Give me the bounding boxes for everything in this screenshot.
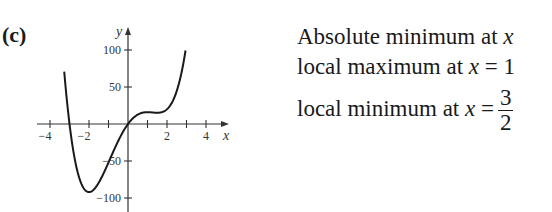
y-tick-label: −100 <box>96 191 121 205</box>
fraction: 32 <box>498 86 514 135</box>
absolute-min-line: Absolute minimum at x <box>297 22 515 52</box>
y-tick-label: 100 <box>103 43 121 57</box>
extrema-notes: Absolute minimum at x local maximum at x… <box>297 22 515 135</box>
x-axis-arrow-icon <box>221 121 229 127</box>
x-tick-label: 2 <box>164 129 170 143</box>
local-max-line: local maximum at x = 1 <box>297 52 515 82</box>
x-axis-label: x <box>222 128 230 143</box>
y-axis-label: y <box>114 24 123 39</box>
x-tick-label: −2 <box>78 129 91 143</box>
y-tick-label: 50 <box>109 80 121 94</box>
x-tick-label: −4 <box>39 129 52 143</box>
x-tick-label: 4 <box>203 129 209 143</box>
y-axis-arrow-icon <box>125 27 131 35</box>
local-min-line: local minimum at x =32 <box>297 86 515 135</box>
function-graph: xy −4−22410050−50−100 <box>0 0 260 212</box>
